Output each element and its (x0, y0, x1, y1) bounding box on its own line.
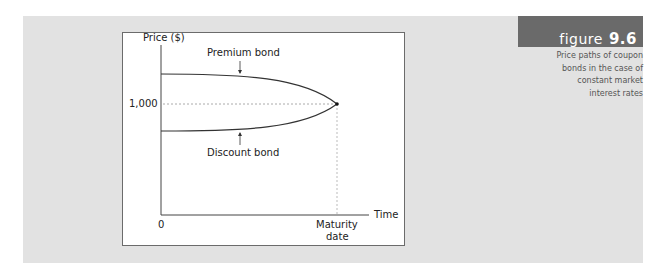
par-value-tick: 1,000 (129, 98, 158, 110)
figure-header: figure9.6 (518, 16, 643, 47)
discount-bond-label: Discount bond (207, 147, 279, 159)
discount-bond-curve (161, 104, 337, 131)
caption-line: Price paths of coupon (523, 50, 643, 63)
x-axis-label: Time (374, 209, 398, 221)
premium-bond-label: Premium bond (207, 47, 280, 59)
premium-bond-curve (161, 74, 337, 104)
chart-plot (123, 33, 406, 247)
y-axis-label: Price ($) (143, 32, 185, 44)
figure-number: 9.6 (609, 30, 637, 48)
figure-word: figure (559, 31, 603, 47)
figure-caption: Price paths of coupon bonds in the case … (523, 50, 643, 100)
caption-line: interest rates (523, 88, 643, 101)
premium-arrow-head-icon (238, 70, 242, 74)
caption-line: constant market (523, 75, 643, 88)
chart-frame: Price ($) Premium bond 1,000 Discount bo… (122, 32, 405, 246)
origin-tick: 0 (158, 219, 164, 231)
maturity-tick-line2: date (326, 231, 349, 243)
discount-arrow-head-icon (238, 132, 242, 136)
figure-title: figure9.6 (559, 31, 637, 47)
caption-line: bonds in the case of (523, 63, 643, 76)
maturity-point (335, 102, 339, 106)
maturity-tick-line1: Maturity (316, 219, 358, 231)
